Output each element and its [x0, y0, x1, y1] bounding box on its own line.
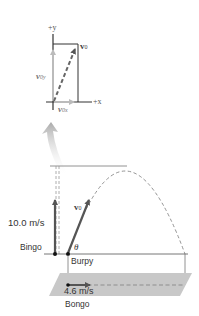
v0-dashed-vector	[54, 49, 75, 101]
inset-x-axis-label: +x	[93, 98, 102, 106]
inset-y-axis-label: +y	[48, 24, 57, 32]
bingo-point	[53, 252, 57, 256]
burpy-v0-subscript: 0	[79, 205, 82, 211]
trajectory-dashed	[68, 171, 185, 254]
v0-subscript: 0	[85, 44, 88, 50]
v0x-subscript: 0x	[62, 107, 68, 113]
main-scene	[44, 166, 192, 296]
zoom-arrow	[42, 122, 68, 176]
projectile-diagram	[0, 0, 199, 316]
burpy-v0-label: v0	[74, 203, 82, 212]
bongo-name-label: Bongo	[65, 300, 90, 309]
inset-v0y-label: v0y	[36, 72, 46, 81]
bingo-name-label: Bingo	[20, 243, 42, 252]
inset-v0x-label: v0x	[58, 105, 68, 114]
inset-v0-label: v0	[80, 42, 88, 51]
bongo-speed-label: 4.6 m/s	[64, 287, 94, 296]
burpy-name-label: Burpy	[71, 257, 93, 266]
bingo-speed-label: 10.0 m/s	[8, 218, 44, 228]
launch-angle-label: θ	[74, 243, 78, 252]
v0y-subscript: 0y	[40, 74, 46, 80]
